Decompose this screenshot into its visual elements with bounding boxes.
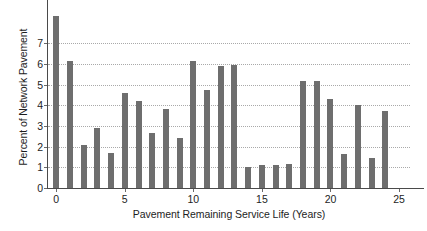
x-tick-label: 0: [53, 194, 59, 205]
bar: [369, 158, 375, 188]
y-tick-label: 3: [37, 121, 43, 132]
y-tick-label: 0: [37, 183, 43, 194]
bar: [204, 90, 210, 188]
bar: [355, 105, 361, 188]
plot-area: 01234567 0510152025: [48, 8, 410, 188]
bar: [67, 61, 73, 188]
bar: [341, 154, 347, 188]
bar: [300, 81, 306, 188]
x-tick-label: 25: [393, 194, 405, 205]
x-tick-label: 5: [122, 194, 128, 205]
bar: [163, 109, 169, 188]
bar: [218, 66, 224, 188]
bar: [245, 167, 251, 188]
x-axis-line: [47, 188, 424, 189]
bar-series: [48, 8, 410, 188]
y-axis-title: Percent of Network Pavement: [14, 2, 32, 192]
bar: [286, 164, 292, 188]
y-tick-label: 4: [37, 100, 43, 111]
y-tick-label: 7: [37, 38, 43, 49]
bar: [190, 61, 196, 188]
chart-figure: Percent of Network Pavement 01234567 051…: [0, 0, 427, 231]
bar: [53, 16, 59, 188]
x-tick-label: 10: [188, 194, 200, 205]
bar: [149, 133, 155, 188]
bar: [382, 111, 388, 188]
bar: [94, 128, 100, 188]
bar: [273, 165, 279, 188]
y-tick-label: 2: [37, 141, 43, 152]
bar: [108, 153, 114, 188]
bar: [177, 138, 183, 188]
y-tick-label: 5: [37, 79, 43, 90]
bar: [122, 93, 128, 188]
x-tick-label: 15: [256, 194, 268, 205]
x-tick-label: 20: [325, 194, 337, 205]
bar: [81, 145, 87, 188]
y-tick-label: 6: [37, 59, 43, 70]
bar: [327, 99, 333, 188]
bar: [259, 165, 265, 188]
y-tick-label: 1: [37, 162, 43, 173]
bar: [231, 65, 237, 188]
bar: [314, 81, 320, 188]
x-axis-title: Pavement Remaining Service Life (Years): [48, 208, 410, 220]
y-axis-line: [47, 0, 48, 188]
bar: [136, 101, 142, 188]
